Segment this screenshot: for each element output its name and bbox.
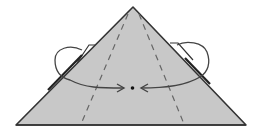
center-dot xyxy=(131,86,135,90)
paper-triangle xyxy=(16,7,246,125)
fold-diagram-svg xyxy=(0,0,267,136)
origami-diagram xyxy=(0,0,267,136)
